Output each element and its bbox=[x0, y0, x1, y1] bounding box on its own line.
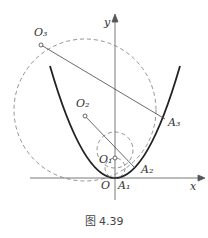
axes bbox=[30, 14, 205, 200]
origin-label: O bbox=[101, 179, 110, 192]
o3-label: O₃ bbox=[34, 26, 47, 39]
a3-label: A₃ bbox=[168, 116, 180, 129]
a1-label: A₁ bbox=[118, 179, 130, 192]
o2-label: O₂ bbox=[76, 97, 89, 110]
figure: y x O O₃ O₂ O₁ A₁ A₂ A₃ 图 4.39 bbox=[0, 0, 208, 238]
normal-lines bbox=[39, 43, 165, 168]
circles bbox=[14, 39, 156, 181]
y-axis-label: y bbox=[104, 16, 110, 29]
o1-label: O₁ bbox=[99, 153, 112, 166]
figure-caption: 图 4.39 bbox=[0, 212, 208, 228]
a2-label: A₂ bbox=[141, 163, 153, 176]
x-axis-label: x bbox=[190, 180, 196, 193]
